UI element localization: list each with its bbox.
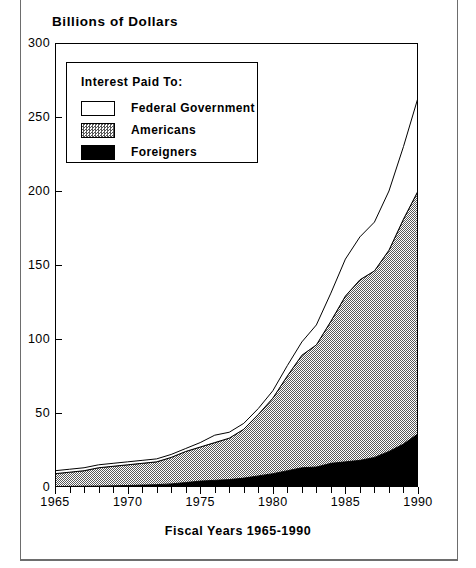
frame-bottom-rule bbox=[20, 559, 458, 561]
x-tick-mark bbox=[142, 487, 143, 493]
y-tick-label: 50 bbox=[35, 406, 50, 420]
x-tick-mark bbox=[84, 487, 85, 493]
x-tick-label: 1975 bbox=[185, 495, 214, 509]
legend-label-federal-government: Federal Government bbox=[131, 101, 255, 116]
x-tick-label: 1990 bbox=[403, 495, 432, 509]
x-tick-mark bbox=[258, 487, 259, 493]
legend-title: Interest Paid To: bbox=[81, 75, 183, 89]
x-tick-mark bbox=[244, 487, 245, 493]
y-tick-label: 150 bbox=[28, 258, 50, 272]
x-tick-label: 1980 bbox=[258, 495, 287, 509]
y-tick-label: 0 bbox=[43, 480, 50, 494]
x-tick-mark bbox=[157, 487, 158, 493]
x-tick-mark bbox=[374, 487, 375, 493]
x-tick-mark bbox=[403, 487, 404, 493]
y-tick-mark bbox=[55, 339, 62, 340]
x-tick-mark bbox=[360, 487, 361, 493]
y-axis: 050100150200250300 bbox=[0, 43, 50, 487]
x-tick-label: 1965 bbox=[40, 495, 69, 509]
x-tick-mark bbox=[186, 487, 187, 493]
y-axis-title: Billions of Dollars bbox=[52, 14, 178, 29]
x-tick-mark bbox=[128, 487, 129, 494]
x-tick-mark bbox=[418, 487, 419, 494]
y-tick-mark bbox=[55, 265, 62, 266]
x-tick-label: 1985 bbox=[331, 495, 360, 509]
x-tick-mark bbox=[389, 487, 390, 493]
x-tick-mark bbox=[171, 487, 172, 493]
x-tick-mark bbox=[287, 487, 288, 493]
legend-swatch-foreigners bbox=[81, 145, 115, 160]
x-tick-mark bbox=[229, 487, 230, 493]
y-tick-mark bbox=[55, 413, 62, 414]
y-tick-label: 200 bbox=[28, 184, 50, 198]
x-tick-mark bbox=[302, 487, 303, 493]
x-tick-mark bbox=[331, 487, 332, 493]
legend-label-foreigners: Foreigners bbox=[131, 145, 197, 160]
x-tick-mark bbox=[273, 487, 274, 494]
x-tick-label: 1970 bbox=[113, 495, 142, 509]
legend-label-americans: Americans bbox=[131, 123, 196, 138]
y-tick-label: 100 bbox=[28, 332, 50, 346]
x-tick-mark bbox=[345, 487, 346, 494]
x-tick-mark bbox=[215, 487, 216, 493]
chart-legend: Interest Paid To: Federal Government Ame… bbox=[66, 62, 258, 163]
x-tick-mark bbox=[99, 487, 100, 493]
legend-swatch-americans bbox=[81, 123, 115, 138]
y-tick-mark bbox=[55, 117, 62, 118]
y-tick-label: 250 bbox=[28, 110, 50, 124]
x-tick-mark bbox=[113, 487, 114, 493]
x-axis-title: Fiscal Years 1965-1990 bbox=[0, 524, 476, 538]
x-tick-mark bbox=[55, 487, 56, 494]
y-tick-label: 300 bbox=[28, 36, 50, 50]
legend-swatch-federal-government bbox=[81, 101, 115, 116]
y-tick-mark bbox=[55, 191, 62, 192]
x-tick-mark bbox=[316, 487, 317, 493]
x-tick-mark bbox=[70, 487, 71, 493]
x-tick-mark bbox=[200, 487, 201, 494]
